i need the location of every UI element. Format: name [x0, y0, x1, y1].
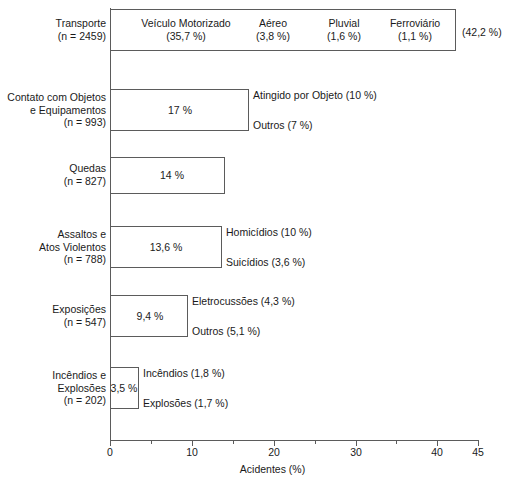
x-tick-minor-15	[233, 441, 234, 444]
category-label-line2: (n = 827)	[2, 175, 106, 188]
x-tick-label-20: 20	[268, 446, 280, 458]
sub-label-eletrocussoes: Eletrocussões (4,3 %)	[192, 295, 295, 307]
category-label-line1: Transporte	[2, 17, 106, 30]
category-label-line1: Assaltos e	[2, 228, 106, 241]
bar-value-exposicoes: 9,4 %	[137, 310, 164, 322]
sub-label-homicidios: Homicídios (10 %)	[226, 226, 312, 238]
category-label-line1: Quedas	[2, 162, 106, 175]
x-tick-label-30: 30	[350, 446, 362, 458]
sub-label-suicidios: Suicídios (3,6 %)	[226, 256, 305, 268]
segment-label-value: (1,6 %)	[327, 30, 361, 43]
sub-label-outros-contato: Outros (7 %)	[253, 119, 313, 131]
category-label-quedas: Quedas (n = 827)	[2, 162, 106, 187]
category-label-incendios-explosoes: Incêndios e Explosões (n = 202)	[2, 369, 106, 407]
x-axis-title-text: Acidentes (%)	[240, 463, 305, 475]
category-label-assaltos-atos-violentos: Assaltos e Atos Violentos (n = 788)	[2, 228, 106, 266]
category-label-line2: Explosões	[2, 382, 106, 395]
segment-label-value: (3,8 %)	[256, 30, 290, 43]
category-label-contato-objetos: Contato com Objetos e Equipamentos (n = …	[2, 91, 106, 129]
category-label-line2: (n = 547)	[2, 316, 106, 329]
x-axis-line	[110, 440, 479, 441]
accident-distribution-chart: 0 10 20 30 40 45 Acidentes (%) Transport…	[0, 0, 515, 485]
bar-value-contato-objetos: 17 %	[168, 104, 192, 116]
bar-value-incendios-explosoes: 3,5 %	[111, 382, 138, 394]
category-label-line1: Contato com Objetos	[2, 91, 106, 104]
category-label-line2: (n = 2459)	[2, 30, 106, 43]
category-label-exposicoes: Exposições (n = 547)	[2, 303, 106, 328]
category-label-line3: (n = 788)	[2, 253, 106, 266]
sub-label-atingido-por-objeto: Atingido por Objeto (10 %)	[253, 89, 377, 101]
category-label-line1: Incêndios e	[2, 369, 106, 382]
x-tick-label-10: 10	[186, 446, 198, 458]
segment-label-veiculo-motorizado: Veículo Motorizado (35,7 %)	[141, 17, 230, 42]
bar-value-assaltos-atos-violentos: 13,6 %	[150, 241, 183, 253]
segment-label-name: Veículo Motorizado	[141, 17, 230, 30]
segment-label-aereo: Aéreo (3,8 %)	[256, 17, 290, 42]
segment-label-name: Pluvial	[327, 17, 361, 30]
x-tick-minor-35	[396, 441, 397, 444]
sub-label-outros-exposicoes: Outros (5,1 %)	[192, 325, 260, 337]
x-tick-label-40: 40	[431, 446, 443, 458]
category-label-line1: Exposições	[2, 303, 106, 316]
sub-label-incendios: Incêndios (1,8 %)	[143, 367, 225, 379]
segment-label-value: (35,7 %)	[141, 30, 230, 43]
segment-label-name: Ferroviário	[390, 17, 440, 30]
category-label-line3: (n = 993)	[2, 116, 106, 129]
x-axis-title: Acidentes (%)	[0, 463, 515, 475]
sub-label-explosoes: Explosões (1,7 %)	[143, 397, 228, 409]
category-label-transporte: Transporte (n = 2459)	[2, 17, 106, 42]
segment-label-value: (1,1 %)	[390, 30, 440, 43]
category-label-line2: e Equipamentos	[2, 104, 106, 117]
x-tick-label-0: 0	[107, 446, 113, 458]
x-tick-minor-25	[315, 441, 316, 444]
segment-label-ferroviario: Ferroviário (1,1 %)	[390, 17, 440, 42]
bar-value-quedas: 14 %	[160, 169, 184, 181]
category-label-line2: Atos Violentos	[2, 241, 106, 254]
category-label-line3: (n = 202)	[2, 394, 106, 407]
total-label-transporte: (42,2 %)	[462, 26, 502, 38]
segment-label-pluvial: Pluvial (1,6 %)	[327, 17, 361, 42]
x-tick-minor-5	[151, 441, 152, 444]
segment-label-name: Aéreo	[256, 17, 290, 30]
plot-area: 0 10 20 30 40 45 Acidentes (%) Transport…	[0, 0, 515, 485]
x-tick-label-45: 45	[472, 446, 484, 458]
